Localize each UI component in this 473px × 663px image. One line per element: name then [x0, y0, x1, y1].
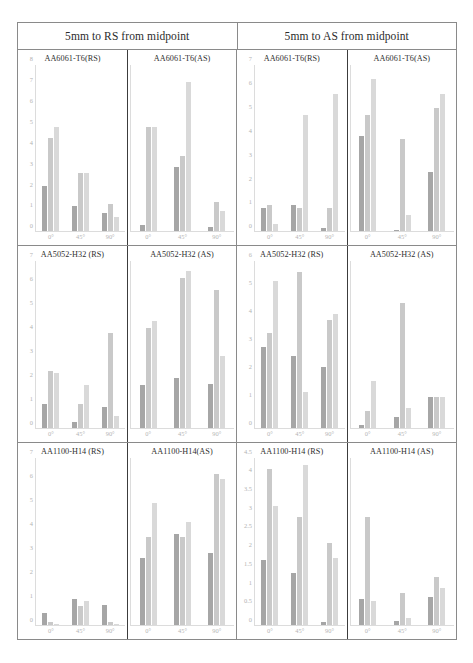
plot-area: 0°45°90° [130, 65, 234, 243]
y-tick-label: 3 [249, 336, 252, 342]
y-tick-label: 5 [30, 300, 33, 306]
bar-series2 [108, 333, 113, 428]
bar-series3 [273, 224, 278, 231]
y-tick-label: 1 [30, 202, 33, 208]
bar-series3 [220, 356, 225, 427]
bar-series2 [297, 272, 302, 427]
bar-series1 [140, 385, 145, 428]
y-tick-label: 4 [249, 467, 252, 473]
x-axis-labels: 0°45°90° [255, 231, 345, 242]
bar-group [321, 65, 338, 231]
x-axis-labels: 0°45°90° [255, 625, 345, 636]
bar-series2 [365, 517, 370, 625]
bars-canvas: 0°45°90° [350, 261, 455, 428]
bar-group [102, 261, 119, 427]
bar-group [140, 458, 157, 625]
bar-groups [255, 458, 345, 625]
bar-group [208, 458, 225, 625]
y-tick-label: 4.5 [244, 449, 252, 455]
x-tick-label: 90° [420, 430, 455, 437]
bar-group [321, 261, 338, 427]
chart-title: AA6061-T6(AS) [350, 53, 455, 64]
bar-series2 [365, 115, 370, 231]
bar-series3 [333, 94, 338, 232]
chart-panel-r3p2: AA1100-H14(AS)0°45°90° [127, 443, 236, 639]
bar-series3 [440, 94, 445, 232]
bar-series3 [333, 558, 338, 625]
chart-title: AA5052-H32 (RS) [239, 249, 345, 260]
y-tick-label: 7 [30, 252, 33, 258]
bar-series3 [84, 601, 89, 625]
bar-series3 [114, 217, 119, 232]
bar-group [140, 261, 157, 427]
y-tick-label: 1 [249, 199, 252, 205]
bar-group [261, 261, 278, 427]
bar-group [42, 458, 59, 625]
x-axis-labels: 0°45°90° [131, 231, 234, 242]
bars-canvas: 0°45°90° [130, 261, 234, 428]
x-tick-label: 90° [315, 627, 345, 634]
bar-series2 [327, 208, 332, 232]
bar-groups [255, 65, 345, 231]
bar-series2 [78, 606, 83, 625]
x-tick-label: 45° [165, 430, 199, 437]
bar-group [174, 458, 191, 625]
x-axis-labels: 0°45°90° [351, 428, 455, 439]
x-tick-label: 45° [66, 627, 96, 634]
y-tick-label: 2 [249, 542, 252, 548]
x-tick-label: 0° [351, 627, 386, 634]
chart-title: AA6061-T6(RS) [20, 53, 125, 64]
bar-series1 [291, 356, 296, 428]
figure-page: 5mm to RS from midpoint 5mm to AS from m… [0, 0, 473, 663]
bar-group [140, 65, 157, 231]
x-axis-labels: 0°45°90° [351, 625, 455, 636]
bar-series1 [321, 367, 326, 428]
bar-series3 [152, 503, 157, 625]
figure-frame: 5mm to RS from midpoint 5mm to AS from m… [17, 22, 457, 640]
bar-series3 [303, 465, 308, 625]
x-tick-label: 90° [420, 627, 455, 634]
y-axis: 0123456 [239, 261, 254, 439]
plot-area: 0°45°90° [350, 458, 455, 637]
bar-group [42, 261, 59, 427]
x-axis-labels: 0°45°90° [255, 428, 345, 439]
bar-series2 [78, 404, 83, 428]
x-tick-label: 0° [36, 233, 66, 240]
chart-panel-r1p3: AA6061-T6(RS)012345670°45°90° [237, 50, 347, 245]
bar-groups [36, 458, 125, 625]
bar-series2 [434, 577, 439, 625]
y-tick-label: 3 [30, 161, 33, 167]
bar-series3 [303, 392, 308, 428]
bar-series2 [78, 173, 83, 231]
x-axis-labels: 0°45°90° [36, 625, 125, 636]
y-tick-label: 0 [249, 617, 252, 623]
bar-group [261, 65, 278, 231]
bar-series3 [220, 211, 225, 232]
bars-canvas: 0°45°90° [35, 65, 125, 232]
plot-area: 0°45°90° [130, 458, 234, 637]
bar-series1 [359, 136, 364, 231]
bar-group [428, 261, 445, 427]
bar-group [394, 65, 411, 231]
x-tick-label: 90° [420, 233, 455, 240]
x-axis-labels: 0°45°90° [131, 428, 234, 439]
bar-series2 [180, 156, 185, 231]
bar-group [291, 65, 308, 231]
bar-series3 [220, 479, 225, 625]
bars-canvas: 0°45°90° [130, 458, 234, 626]
bar-series1 [261, 208, 266, 232]
bar-series2 [214, 474, 219, 625]
x-axis-labels: 0°45°90° [36, 231, 125, 242]
chart-panel-r1p1: AA6061-T6(RS)0123456780°45°90° [18, 50, 127, 245]
bar-series1 [428, 397, 433, 427]
bar-series3 [54, 373, 59, 428]
chart-title: AA5052-H32 (RS) [20, 249, 125, 260]
y-tick-label: 3 [30, 348, 33, 354]
bar-group [174, 65, 191, 231]
bar-series3 [84, 385, 89, 428]
y-tick-label: 6 [30, 98, 33, 104]
x-tick-label: 90° [200, 430, 234, 437]
x-tick-label: 0° [255, 430, 285, 437]
chart-panel-r2p1: AA5052-H32 (RS)012345670°45°90° [18, 246, 127, 441]
y-tick-label: 5 [249, 104, 252, 110]
